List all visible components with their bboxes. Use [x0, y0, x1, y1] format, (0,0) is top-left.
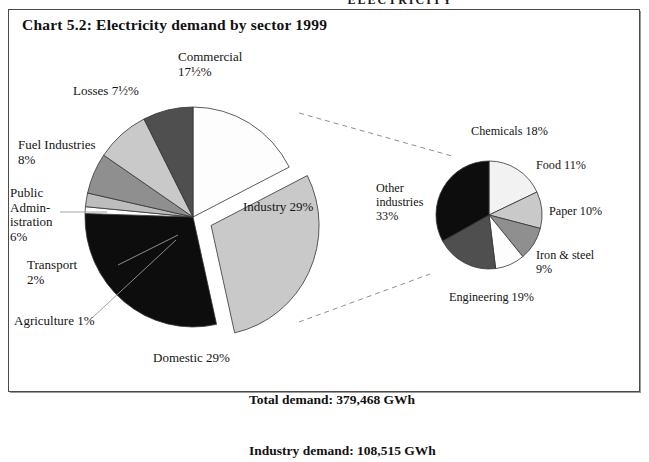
total-demand-text: Total demand: 379,468 GWh — [249, 391, 436, 408]
main-pie — [85, 107, 319, 333]
label-chemicals: Chemicals 18% — [471, 124, 548, 138]
label-domestic: Domestic 29% — [153, 351, 230, 366]
industry-demand-text: Industry demand: 108,515 GWh — [249, 442, 436, 459]
connector-line-top — [299, 113, 452, 156]
label-iron-steel: Iron & steel 9% — [536, 248, 594, 276]
label-public-administration: Public Admin- istration 6% — [10, 186, 53, 244]
pie-slice-domestic — [85, 214, 217, 327]
label-fuel-industries: Fuel Industries 8% — [18, 138, 96, 167]
label-paper: Paper 10% — [549, 204, 602, 218]
label-other-industries: Other industries 33% — [376, 181, 423, 223]
label-commercial: Commercial 17½% — [178, 50, 242, 79]
label-engineering: Engineering 19% — [449, 290, 534, 304]
connector-line-bottom — [299, 274, 430, 322]
label-transport: Transport 2% — [27, 258, 77, 287]
industry-breakdown-pie — [436, 161, 542, 269]
label-industry: Industry 29% — [243, 200, 313, 215]
label-losses: Losses 7½% — [73, 84, 139, 99]
label-food: Food 11% — [536, 158, 586, 172]
label-agriculture: Agriculture 1% — [14, 314, 95, 329]
totals-block: Total demand: 379,468 GWh Industry deman… — [249, 357, 436, 462]
